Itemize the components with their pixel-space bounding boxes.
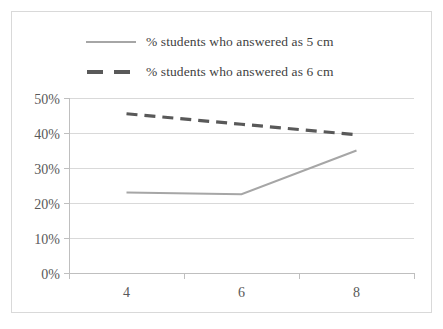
series-line-dashed [127,114,357,135]
chart-frame: % students who answered as 5 cm % studen… [11,11,432,313]
y-axis-tick-labels: 0%10%20%30%40%50% [34,92,60,282]
plot-area: 0%10%20%30%40%50% 468 [12,12,433,314]
x-axis-label: 6 [238,285,245,300]
y-axis-label: 20% [34,197,60,212]
series-line-solid [127,151,357,195]
y-axis-label: 30% [34,162,60,177]
y-axis-label: 40% [34,127,60,142]
chart-svg: 0%10%20%30%40%50% 468 [12,12,433,314]
x-axis-tick-labels: 468 [123,285,360,300]
x-axis-label: 8 [353,285,360,300]
x-axis-label: 4 [123,285,130,300]
data-series-group [127,114,357,195]
y-axis-label: 50% [34,92,60,107]
y-axis-label: 10% [34,232,60,247]
y-axis-label: 0% [41,267,60,282]
